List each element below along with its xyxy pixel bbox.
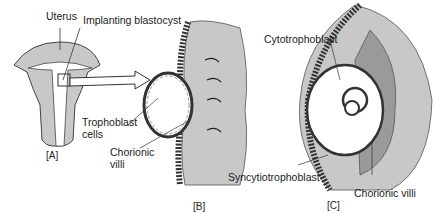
caption-b: [B] (193, 201, 205, 212)
caption-a: [A] (46, 150, 58, 161)
label-chorionic-b: Chorionic (110, 147, 154, 158)
label-trophoblast-cells: cells (82, 129, 103, 140)
implantation-diagram: Uterus Implanting blastocyst Trophoblast… (0, 0, 435, 214)
label-implanting-blastocyst: Implanting blastocyst (83, 15, 181, 26)
caption-c: [C] (327, 200, 340, 211)
label-uterus: Uterus (46, 11, 77, 22)
label-villi-b: villi (110, 159, 125, 170)
label-trophoblast: Trophoblast (82, 117, 137, 128)
diagram-graphics (0, 0, 435, 214)
label-cytotrophoblast: Cytotrophoblast (264, 34, 338, 45)
label-chorionic-villi-c: Chorionic villi (354, 188, 416, 199)
label-syncytiotrophoblast: Syncytiotrophoblast (228, 172, 320, 183)
panel-b-drawing (128, 21, 247, 185)
